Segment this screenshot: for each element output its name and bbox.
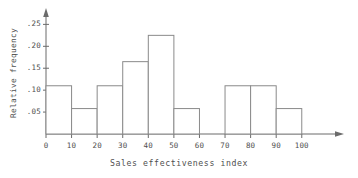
x-tick-label: 10 [58, 142, 86, 150]
x-axis-ticks [46, 134, 302, 138]
x-tick-label: 20 [83, 142, 111, 150]
y-tick-label: .25 [12, 20, 41, 28]
histogram-bar [174, 109, 200, 134]
x-axis-title: Sales effectiveness index [46, 158, 312, 168]
histogram-bar [148, 35, 174, 134]
x-tick-label: 50 [160, 142, 188, 150]
histogram-bars [46, 35, 302, 134]
histogram-bar [46, 86, 72, 134]
x-tick-label: 80 [237, 142, 265, 150]
histogram-figure: Relative frequency Sales effectiveness i… [0, 0, 358, 178]
histogram-bar [97, 86, 123, 134]
y-axis-arrow-icon [43, 8, 49, 17]
plot-canvas [0, 0, 358, 178]
x-tick-label: 70 [211, 142, 239, 150]
histogram-bar [123, 62, 149, 134]
x-axis-arrow-icon [335, 131, 344, 137]
histogram-bar [251, 86, 277, 134]
histogram-bar [72, 109, 98, 134]
y-tick-label: .05 [12, 108, 41, 116]
x-tick-label: 60 [185, 142, 213, 150]
histogram-bar [225, 86, 251, 134]
y-tick-label: .10 [12, 86, 41, 94]
x-tick-label: 30 [109, 142, 137, 150]
x-tick-label: 100 [288, 142, 316, 150]
x-tick-label: 90 [262, 142, 290, 150]
y-tick-label: .15 [12, 64, 41, 72]
x-tick-label: 40 [134, 142, 162, 150]
histogram-bar [276, 109, 302, 134]
x-tick-label: 0 [32, 142, 60, 150]
y-tick-label: .20 [12, 42, 41, 50]
